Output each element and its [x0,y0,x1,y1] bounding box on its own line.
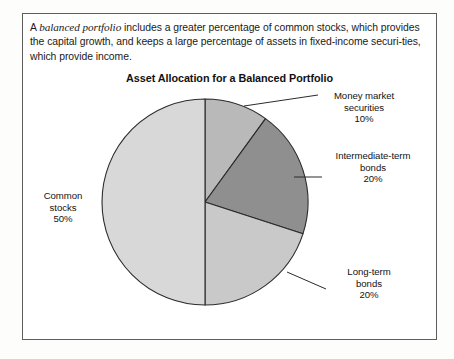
callout-common-stocks: Common stocks 50% [30,190,96,225]
callout-money-market: Money market securities 10% [316,90,412,125]
callout-money-market-line2: securities [316,102,412,114]
pie-slice-common-stocks[interactable] [102,99,205,305]
leader-line-money-market [244,95,318,106]
callout-common-stocks-line2: stocks [30,202,96,214]
callout-intermediate-term-bonds-line2: bonds [318,162,428,174]
callout-long-term-bonds-value: 20% [326,289,412,301]
callout-intermediate-term-bonds: Intermediate-term bonds 20% [318,150,428,185]
callout-long-term-bonds: Long-term bonds 20% [326,266,412,301]
callout-common-stocks-line1: Common [30,190,96,202]
callout-long-term-bonds-line2: bonds [326,278,412,290]
callout-common-stocks-value: 50% [30,213,96,225]
callout-money-market-value: 10% [316,113,412,125]
callout-intermediate-term-bonds-line1: Intermediate-term [318,150,428,162]
leader-line-long-term-bonds [287,272,326,289]
callout-money-market-line1: Money market [316,90,412,102]
callout-long-term-bonds-line1: Long-term [326,266,412,278]
callout-intermediate-term-bonds-value: 20% [318,173,428,185]
